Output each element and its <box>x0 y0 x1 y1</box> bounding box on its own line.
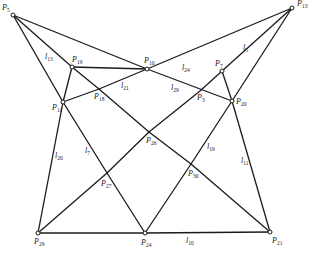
point-marker-P7 <box>220 69 224 73</box>
point-label-P21: P21 <box>272 237 282 247</box>
line-label-l7: l7 <box>85 147 90 157</box>
point-label-P3: P3 <box>197 94 205 104</box>
point-marker-P13 <box>290 6 294 10</box>
segment-P18-P26 <box>99 89 149 132</box>
point-label-P13: P13 <box>297 0 307 10</box>
segment-P27-P24 <box>107 173 145 233</box>
line-label-l5: l5 <box>243 44 248 54</box>
segment-P5-P19 <box>13 15 72 67</box>
point-marker-P21 <box>268 230 272 234</box>
point-label-P18: P18 <box>94 93 104 103</box>
figure-lines <box>0 0 313 259</box>
segment-P11-P27 <box>63 102 107 173</box>
segment-P24-P21 <box>145 232 270 233</box>
segment-P26-P27 <box>107 132 149 173</box>
point-marker-P24 <box>143 231 147 235</box>
segment-P3-P26 <box>149 91 200 132</box>
segment-P20-P30 <box>191 101 232 164</box>
line-label-l24: l24 <box>182 64 190 74</box>
segment-P7-P3 <box>200 71 222 91</box>
segment-P5-P11 <box>13 15 63 102</box>
point-marker-P10 <box>145 67 149 71</box>
segment-P30-P24 <box>145 164 191 233</box>
segment-P19-P18 <box>72 67 99 89</box>
point-label-P7: P7 <box>215 60 223 70</box>
segment-P20-P21 <box>232 101 270 232</box>
segment-P19-P11 <box>63 67 72 102</box>
line-label-l20: l20 <box>55 152 63 162</box>
line-label-l21: l21 <box>121 82 129 92</box>
line-label-l19: l19 <box>207 143 215 153</box>
line-label-l13: l13 <box>45 53 53 63</box>
point-label-P11: P11 <box>52 104 62 114</box>
segment-P29-P11 <box>38 102 63 233</box>
segment-P7-P20 <box>222 71 232 101</box>
point-label-P10: P10 <box>144 57 154 67</box>
line-label-l10: l10 <box>186 237 194 247</box>
segment-P30-P21 <box>191 164 270 232</box>
projective-configuration-figure: P5P13P19P10P11P18P7P3P20P26P30P27P29P24P… <box>0 0 313 259</box>
point-label-P29: P29 <box>34 238 44 248</box>
point-label-P20: P20 <box>236 98 246 108</box>
line-label-l29: l29 <box>171 84 179 94</box>
point-marker-P20 <box>230 99 234 103</box>
point-marker-P19 <box>70 65 74 69</box>
point-label-P27: P27 <box>101 180 111 190</box>
point-label-P5: P5 <box>2 4 10 14</box>
point-label-P24: P24 <box>141 239 151 249</box>
segment-P19-P10 <box>72 67 147 69</box>
point-label-P19: P19 <box>72 56 82 66</box>
point-marker-P29 <box>36 231 40 235</box>
point-label-P26: P26 <box>146 137 156 147</box>
point-label-P30: P30 <box>188 170 198 180</box>
line-label-l11: l11 <box>241 157 249 167</box>
point-marker-P5 <box>11 13 15 17</box>
